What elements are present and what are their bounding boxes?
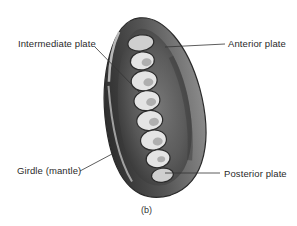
label-anterior-plate: Anterior plate — [228, 38, 286, 49]
specimen-illustration — [0, 0, 297, 226]
label-posterior-plate: Posterior plate — [224, 168, 287, 179]
specimen-body — [92, 11, 216, 204]
label-girdle-mantle: Girdle (mantle) — [17, 165, 81, 176]
labeled-specimen-figure: Intermediate plate Anterior plate Girdle… — [0, 0, 297, 226]
label-intermediate-plate: Intermediate plate — [18, 38, 96, 49]
leader-girdle — [80, 154, 112, 171]
figure-caption: (b) — [141, 205, 152, 215]
